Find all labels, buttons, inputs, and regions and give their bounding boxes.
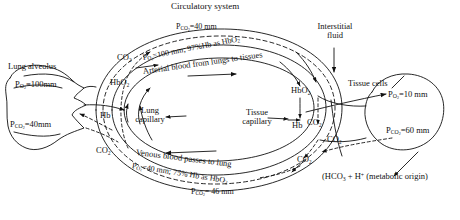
tissue-cells-leader <box>392 76 404 88</box>
co2-lung-capillary-label: CO₂ <box>96 146 111 155</box>
tissue-po2-value: PO2=10 mm <box>388 90 428 100</box>
lung-capillary-label: Lung capillary <box>126 106 174 124</box>
hb-tissue-label: Hb <box>292 121 302 130</box>
tissue-pco2-value: PCO2=60 mm <box>386 126 429 136</box>
lung-alveolus-outline <box>6 65 96 149</box>
hbo2-lung-label: HbO₂ <box>110 78 130 87</box>
diagram-canvas: Circulatory system Interstitial fluid Lu… <box>0 0 460 220</box>
lung-alveolus-label: Lung alveolus <box>8 62 56 71</box>
hbo2-tissue-label: HbO₂ <box>291 86 311 95</box>
arterial-pco2-value: PCO2=40 mm <box>176 23 217 33</box>
arterial-flow-arrow <box>188 74 236 76</box>
co2-interstitial-label: CO₂ <box>327 135 342 144</box>
alveolus-pco2-value: PCO2=40mm <box>10 120 51 130</box>
metabolic-origin-label: (HCO3 + H+ (metabolic origin) <box>322 172 428 182</box>
co2-lower-tissue-label: CO₂ <box>297 155 312 164</box>
interstitial-fluid-label: Interstitial fluid <box>303 22 367 40</box>
tissue-capillary-label: Tissue capillary <box>233 108 281 126</box>
o2-into-tissue-arrow <box>306 94 386 112</box>
figure-title: Circulatory system <box>171 2 239 11</box>
hb-lung-label: Hb <box>100 111 110 120</box>
co2-alveolus-label: CO₂ <box>117 53 132 62</box>
alveolus-po2-value: PO2=100mm <box>15 80 57 90</box>
venous-pco2-value: PCO2= 46 mm <box>191 188 234 198</box>
tissue-cells-label: Tissue cells <box>348 79 388 88</box>
co2-tissue-capillary-label: CO₂ <box>307 118 322 127</box>
